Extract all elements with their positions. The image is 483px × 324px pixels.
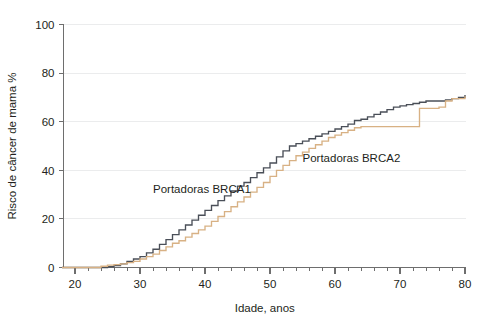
- y-axis-title: Risco de câncer de mama %: [6, 72, 18, 219]
- gridlines: [64, 25, 467, 219]
- x-tick-label-50: 50: [264, 278, 277, 290]
- brca2-label: Portadoras BRCA2: [303, 152, 401, 164]
- axes: [64, 25, 467, 268]
- series-line-brca1: [62, 95, 465, 268]
- y-tick-label-40: 40: [42, 165, 55, 177]
- chart-canvas: 020406080100 20304050607080 Portadoras B…: [0, 0, 483, 324]
- y-tick-label-80: 80: [42, 67, 55, 79]
- x-axis-title: Idade, anos: [235, 302, 295, 314]
- data-series: [62, 95, 465, 268]
- x-tick-label-20: 20: [69, 278, 82, 290]
- x-tick-label-60: 60: [329, 278, 342, 290]
- y-tick-label-20: 20: [42, 213, 55, 225]
- y-tick-label-0: 0: [48, 262, 54, 274]
- y-axis-ticks: 020406080100: [35, 19, 63, 274]
- brca1-label: Portadoras BRCA1: [153, 183, 251, 195]
- x-tick-label-80: 80: [459, 278, 472, 290]
- x-tick-label-30: 30: [134, 278, 147, 290]
- y-tick-label-60: 60: [42, 116, 55, 128]
- x-tick-label-40: 40: [199, 278, 212, 290]
- x-tick-label-70: 70: [394, 278, 407, 290]
- y-tick-label-100: 100: [35, 19, 54, 31]
- x-axis-ticks: 20304050607080: [69, 268, 472, 290]
- breast-cancer-risk-chart: 020406080100 20304050607080 Portadoras B…: [0, 0, 483, 324]
